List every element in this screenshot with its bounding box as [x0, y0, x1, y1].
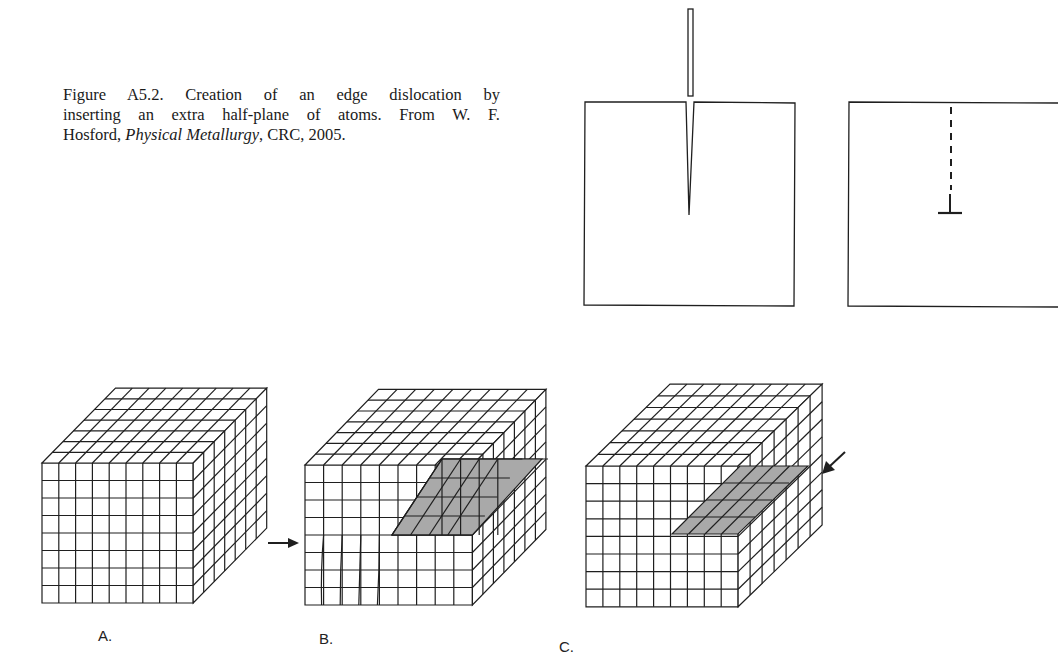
- block-with-knife: [584, 9, 795, 306]
- block-with-dislocation: [848, 102, 1058, 307]
- lattice-cube-a: [42, 388, 267, 603]
- dislocation-symbol: [938, 194, 962, 213]
- knife-blade: [688, 9, 693, 96]
- lattice-cube-c: [586, 384, 822, 607]
- panel-label-c: C.: [559, 638, 574, 655]
- panel-label-a: A.: [98, 627, 112, 644]
- arrow-c-insert: [822, 452, 845, 474]
- lattice-cube-b: [305, 389, 548, 605]
- arrow-a-to-b: [268, 538, 299, 548]
- panel-label-b: B.: [319, 630, 333, 647]
- figure-drawing: [0, 0, 1058, 659]
